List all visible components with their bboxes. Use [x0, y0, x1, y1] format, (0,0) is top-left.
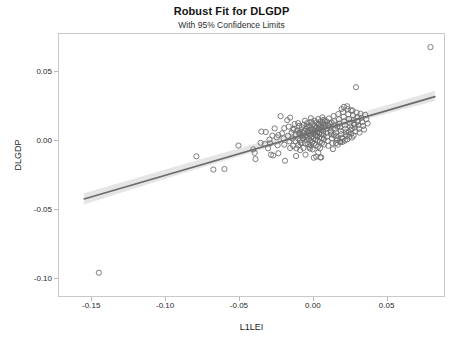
data-point-markers: [96, 45, 433, 276]
y-axis-title: DLGDP: [13, 125, 23, 185]
y-tick-mark: [54, 278, 58, 279]
chart-title: Robust Fit for DLGDP: [0, 5, 463, 17]
y-tick-label: 0.05: [10, 67, 52, 76]
y-tick-mark: [54, 71, 58, 72]
x-tick-label: -0.05: [230, 301, 248, 310]
y-tick-label: -0.05: [10, 205, 52, 214]
x-axis-title: L1LEI: [58, 322, 445, 332]
x-tick-label: 0.05: [379, 301, 395, 310]
robust-fit-line: [84, 97, 435, 199]
y-tick-mark: [54, 140, 58, 141]
chart-page: Robust Fit for DLGDP With 95% Confidence…: [0, 0, 463, 345]
y-tick-label: -0.10: [10, 274, 52, 283]
x-tick-label: -0.15: [82, 301, 100, 310]
x-tick-label: -0.10: [156, 301, 174, 310]
y-tick-mark: [54, 209, 58, 210]
chart-subtitle: With 95% Confidence Limits: [0, 20, 463, 30]
scatter-plot-canvas: [59, 34, 446, 298]
plot-area: [58, 33, 445, 297]
x-tick-label: 0.00: [305, 301, 321, 310]
